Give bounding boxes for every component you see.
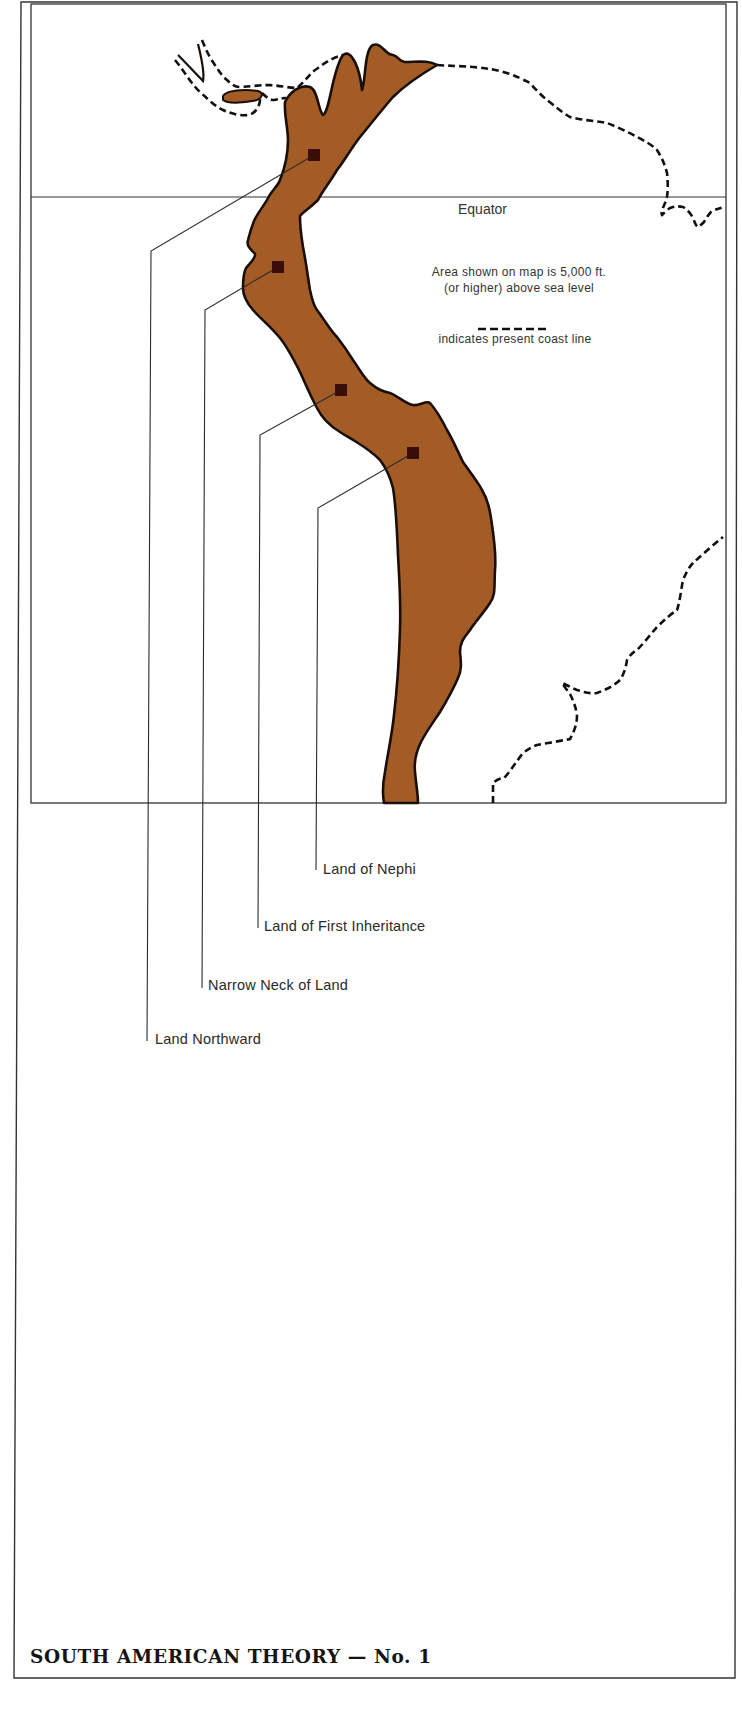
nw-solid-coast: [178, 44, 204, 81]
map-title: SOUTH AMERICAN THEORY — No. 1: [30, 1646, 432, 1667]
label-land-northward: Land Northward: [155, 1032, 261, 1047]
map-page: Equator Area shown on map is 5,000 ft. (…: [0, 0, 742, 1713]
legend-coast-label: indicates present coast line: [413, 333, 617, 345]
label-narrow-neck: Narrow Neck of Land: [208, 978, 348, 993]
marker-narrow-neck: [272, 261, 284, 273]
page-border: [14, 2, 737, 1678]
marker-first-inheritance: [335, 384, 347, 396]
legend-area-line1: Area shown on map is 5,000 ft.: [417, 266, 621, 278]
label-land-of-nephi: Land of Nephi: [323, 862, 416, 877]
map-canvas: [0, 0, 742, 1713]
island: [223, 90, 262, 103]
leader-narrow-neck: [202, 267, 278, 988]
legend-area-line2: (or higher) above sea level: [417, 282, 621, 294]
marker-land-of-nephi: [407, 447, 419, 459]
label-first-inheritance: Land of First Inheritance: [264, 919, 425, 934]
leader-first-inheritance: [258, 390, 341, 928]
equator-label: Equator: [458, 202, 507, 216]
marker-land-northward: [308, 149, 320, 161]
